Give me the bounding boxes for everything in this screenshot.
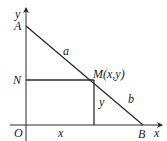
x-axis-label: x (153, 126, 160, 140)
segment-ab (26, 26, 143, 125)
point-a-label: A (13, 19, 22, 33)
origin-label: O (14, 126, 23, 140)
point-n-label: N (12, 73, 22, 87)
segment-a-label: a (63, 44, 69, 58)
coordinate-diagram: y A a N M(x,y) y b O x B x (0, 0, 167, 141)
segment-y-label: y (98, 95, 105, 109)
segment-x-label: x (57, 126, 64, 140)
point-b-label: B (138, 127, 146, 141)
point-m-label: M(x,y) (92, 67, 125, 81)
segment-b-label: b (128, 92, 134, 106)
